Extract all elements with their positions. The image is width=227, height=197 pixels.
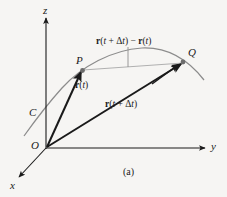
point-label-Q: Q [188, 47, 196, 58]
x-axis-label: x [10, 180, 15, 191]
point-marker-Q [181, 60, 186, 65]
z-axis-label: z [43, 5, 47, 16]
secant-chord-line [83, 63, 183, 70]
space-curve-C [24, 48, 204, 136]
r-tdt-close-paren: ) [134, 99, 137, 109]
point-label-P: P [76, 55, 83, 66]
origin-label: O [31, 140, 39, 151]
point-marker-P [80, 68, 85, 73]
figure-caption: (a) [123, 167, 134, 177]
vector-label-difference: r(t + Δt) − r(t) [96, 37, 151, 47]
x-axis [19, 148, 46, 177]
r-t-close-paren: ) [85, 80, 88, 90]
vector-label-r-t-plus-delta-t: r(t + Δt) [105, 100, 137, 110]
diff-plus: + [106, 36, 116, 46]
figure-container: z y x O C P Q r(t) r(t + Δt) r(t + Δt) −… [0, 0, 227, 197]
difference-vector-arrow [152, 65, 178, 84]
diff-close2: ) [148, 36, 151, 46]
curve-label-C: C [29, 107, 36, 118]
diff-minus: − [128, 36, 138, 46]
y-axis-label: y [211, 141, 216, 152]
vector-label-r-t: r(t) [75, 81, 88, 91]
r-tdt-plus: + [115, 99, 125, 109]
